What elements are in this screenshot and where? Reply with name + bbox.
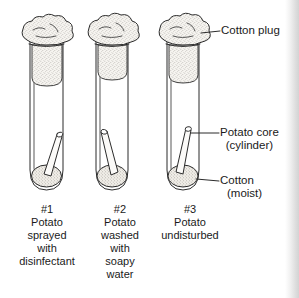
- caption-tube-2: #2 Potato washed with soapy water: [101, 203, 139, 281]
- caption-tube-2-line-5: water: [101, 268, 139, 281]
- callout-cotton-moist-label: Cotton: [220, 174, 254, 186]
- tube-2-illustration: [88, 13, 139, 190]
- caption-tube-1-line-3: with: [19, 242, 75, 255]
- callout-cotton-moist: Cotton (moist): [220, 174, 262, 199]
- caption-tube-2-line-4: soapy: [101, 255, 139, 268]
- caption-tube-1-line-2: sprayed: [19, 229, 75, 242]
- leader-line-cotton-moist: [196, 179, 219, 181]
- tube-3-plug-insert: [169, 45, 198, 83]
- caption-tube-3-line-1: Potato: [161, 216, 219, 229]
- caption-tube-2-line-2: washed: [101, 229, 139, 242]
- caption-tube-3-number: #3: [161, 203, 219, 216]
- caption-tube-3: #3 Potato undisturbed: [161, 203, 219, 242]
- tube-3-illustration: [159, 13, 210, 190]
- callout-potato-core: Potato core (cylinder): [220, 126, 279, 151]
- caption-tube-3-line-2: undisturbed: [161, 229, 219, 242]
- figure-root: Cotton plug Potato core (cylinder) Cotto…: [0, 0, 299, 298]
- caption-tube-2-line-3: with: [101, 242, 139, 255]
- callout-cotton-moist-sublabel: (moist): [220, 187, 262, 200]
- caption-tube-2-number: #2: [101, 203, 139, 216]
- caption-tube-1-line-4: disinfectant: [19, 255, 75, 268]
- caption-tube-2-line-1: Potato: [101, 216, 139, 229]
- caption-tube-1-number: #1: [19, 203, 75, 216]
- tube-3-core-top: [185, 126, 192, 131]
- tube-2-cotton-plug: [88, 13, 139, 45]
- tube-3-cotton-plug: [159, 13, 210, 45]
- tube-1-plug-insert: [32, 45, 62, 86]
- callout-cotton-plug-label: Cotton plug: [221, 24, 280, 36]
- tube-1-cotton-plug: [22, 14, 73, 45]
- tube-1-illustration: [22, 14, 73, 190]
- callout-potato-core-label: Potato core: [220, 126, 279, 138]
- callout-cotton-plug: Cotton plug: [221, 24, 280, 37]
- caption-tube-1: #1 Potato sprayed with disinfectant: [19, 203, 75, 268]
- tube-2-plug-insert: [98, 45, 127, 80]
- callout-potato-core-sublabel: (cylinder): [220, 139, 279, 152]
- caption-tube-1-line-1: Potato: [19, 216, 75, 229]
